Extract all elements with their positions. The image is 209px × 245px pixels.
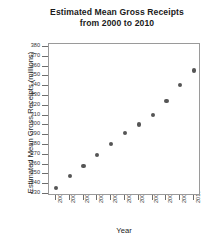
data-point xyxy=(178,83,182,87)
y-axis-tick-label: 340 xyxy=(14,82,40,88)
y-axis-tick-label: 320 xyxy=(14,102,40,108)
x-axis-label: Year xyxy=(48,226,200,235)
y-axis-tick-label: 280 xyxy=(14,141,40,147)
x-axis-tick xyxy=(55,195,56,200)
y-axis-tick-label: 300 xyxy=(14,121,40,127)
y-axis-tick-label: 330 xyxy=(14,92,40,98)
y-axis-tick-label: 310 xyxy=(14,112,40,118)
data-point xyxy=(95,153,99,157)
x-axis-tick xyxy=(193,195,194,200)
y-axis-tick-label: 260 xyxy=(14,161,40,167)
chart-title: Estimated Mean Gross Receipts from 2000 … xyxy=(28,7,206,29)
y-axis-tick-label: 270 xyxy=(14,151,40,157)
data-point xyxy=(164,99,168,103)
chart-figure: Estimated Mean Gross Receipts from 2000 … xyxy=(0,0,209,245)
data-point xyxy=(123,131,127,135)
data-point xyxy=(137,122,141,126)
data-point xyxy=(68,174,72,178)
data-point xyxy=(54,186,58,190)
plot-area xyxy=(49,44,199,194)
y-axis-tick-label: 250 xyxy=(14,170,40,176)
y-axis-tick-label: 380 xyxy=(14,43,40,49)
data-point xyxy=(151,113,155,117)
x-axis-tick xyxy=(124,195,125,200)
y-axis-tick-label: 370 xyxy=(14,53,40,59)
chart-title-line-1: Estimated Mean Gross Receipts xyxy=(28,7,206,18)
plot-frame xyxy=(48,43,200,195)
y-axis-tick-label: 230 xyxy=(14,190,40,196)
y-axis-tick-label: 360 xyxy=(14,63,40,69)
y-axis-tick-label: 240 xyxy=(14,180,40,186)
chart-title-line-2: from 2000 to 2010 xyxy=(28,18,206,29)
data-point xyxy=(81,164,85,168)
data-point xyxy=(109,142,113,146)
y-axis-tick-label: 290 xyxy=(14,131,40,137)
data-point xyxy=(192,68,196,72)
y-axis-tick-label: 350 xyxy=(14,72,40,78)
